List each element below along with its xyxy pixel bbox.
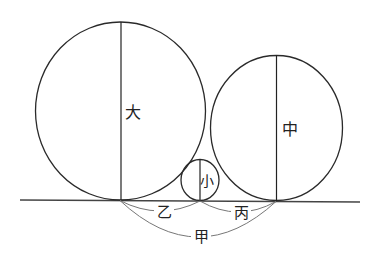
label-large: 大 — [125, 103, 141, 122]
label-jia: 甲 — [194, 228, 209, 246]
label-medium: 中 — [282, 120, 298, 139]
label-bing: 丙 — [234, 204, 249, 222]
label-small: 小 — [200, 173, 214, 189]
label-yi: 乙 — [157, 203, 172, 221]
three-circles-diagram: 大中小乙丙甲 — [0, 0, 374, 263]
ground-line — [20, 200, 360, 202]
